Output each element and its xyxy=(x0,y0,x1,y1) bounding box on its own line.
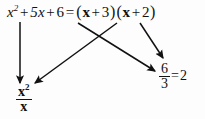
equation-line: x2+5x+6=(x+3)(x+2) xyxy=(7,3,156,21)
left-fraction-numerator-base: x xyxy=(18,84,25,99)
arrow-factor-x-to-left-fraction xyxy=(35,23,117,83)
arrow-six-to-right-fraction xyxy=(78,23,155,71)
right-result-fraction: 6 3 xyxy=(159,62,170,90)
factor2-constant: 2 xyxy=(142,4,150,21)
math-diagram: x2+5x+6=(x+3)(x+2) x2 x 6 3 = 2 xyxy=(0,0,205,119)
arrow-factor-three-to-right-fraction xyxy=(140,23,163,58)
term-five-x: 5x xyxy=(30,4,45,21)
left-result-fraction: x2 x xyxy=(16,85,32,113)
factor1-operator: + xyxy=(90,4,102,21)
factor1-variable: x xyxy=(82,4,90,21)
right-result-expression: 6 3 = 2 xyxy=(159,62,187,90)
right-fraction-denominator: 3 xyxy=(159,77,170,90)
term-x-squared: x2 xyxy=(7,4,19,21)
operator-plus-1: + xyxy=(19,4,31,21)
left-fraction-numerator: x2 xyxy=(16,85,32,98)
factor2-operator: + xyxy=(130,4,142,21)
right-result-equals: = xyxy=(170,68,179,84)
term-six: 6 xyxy=(56,4,64,21)
factor1-constant: 3 xyxy=(102,4,110,21)
left-fraction-numerator-exponent: 2 xyxy=(25,82,30,92)
left-fraction-denominator: x xyxy=(16,100,32,113)
term-x-squared-base: x xyxy=(7,4,14,20)
equals-sign: = xyxy=(64,4,76,21)
factor2-variable: x xyxy=(123,4,131,21)
right-result-value: 2 xyxy=(179,68,187,84)
right-fraction-numerator: 6 xyxy=(159,62,170,75)
operator-plus-2: + xyxy=(45,4,57,21)
close-paren-2: ) xyxy=(150,3,157,20)
